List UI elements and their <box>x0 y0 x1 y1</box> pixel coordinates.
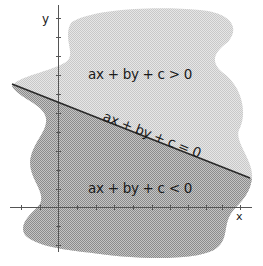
x-axis-label: x <box>236 210 243 223</box>
region-negative-label: ax + by + c < 0 <box>88 180 192 196</box>
half-plane-diagram: y x ax + by + c > 0 ax + by + c = 0 ax +… <box>0 0 263 266</box>
y-axis-label: y <box>42 12 49 26</box>
region-positive-label: ax + by + c > 0 <box>88 66 192 82</box>
